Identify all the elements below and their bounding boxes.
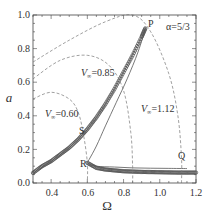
x-tick-0.4: 0.4 [46, 187, 59, 198]
series-upper-branch-numerical-circles [31, 27, 147, 175]
y-tick-0.6: 0.6 [18, 76, 31, 87]
x-tick-0.8: 0.8 [118, 187, 131, 198]
series-analytic-backbone-solid [33, 28, 187, 173]
v060-value: =0.60 [55, 108, 78, 119]
v060-label: V∞=0.60 [45, 108, 79, 120]
x-tick-labels: 0.4 0.6 0.8 1.0 1.2 [46, 187, 203, 198]
x-tick-0.6: 0.6 [82, 187, 95, 198]
y-tick-0.4: 0.4 [18, 110, 31, 121]
v112-label: V∞=1.12 [141, 103, 175, 115]
v085-label: V∞=0.85 [81, 67, 115, 79]
y-tick-labels: 0.0 0.2 0.4 0.6 0.8 1.0 [18, 9, 31, 188]
point-P-label: P [148, 18, 154, 29]
point-S-label: S [79, 125, 85, 136]
y-tick-0.8: 0.8 [18, 43, 31, 54]
frequency-response-chart: 0.0 0.2 0.4 0.6 0.8 1.0 0.4 0.6 0.8 1.0 … [0, 0, 206, 211]
x-tick-1.2: 1.2 [190, 187, 203, 198]
x-tick-1.0: 1.0 [154, 187, 167, 198]
y-tick-0.2: 0.2 [18, 144, 31, 155]
y-axis-title: a [6, 90, 13, 105]
curves [31, 15, 197, 183]
y-tick-1.0: 1.0 [18, 9, 31, 20]
point-Q-label: Q [178, 150, 186, 161]
point-R-label: R [80, 158, 87, 169]
alpha-label: α=5/3 [166, 21, 190, 32]
v112-value: =1.12 [151, 103, 174, 114]
y-tick-0.0: 0.0 [18, 177, 31, 188]
v085-value: =0.85 [91, 67, 114, 78]
x-axis-title: Ω [102, 198, 112, 211]
